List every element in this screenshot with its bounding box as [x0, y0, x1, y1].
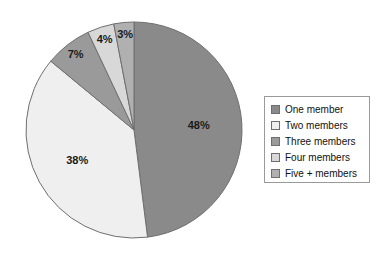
legend-swatch-icon — [271, 137, 280, 146]
legend-swatch-icon — [271, 153, 280, 162]
legend-item: Two members — [271, 118, 369, 133]
chart-legend: One memberTwo membersThree membersFour m… — [264, 96, 370, 183]
legend-item-label: Three members — [285, 136, 356, 147]
legend-item-label: One member — [285, 104, 343, 115]
legend-item: Four members — [271, 150, 369, 165]
legend-item-label: Two members — [285, 120, 348, 131]
legend-item-label: Four members — [285, 152, 350, 163]
legend-item: One member — [271, 102, 369, 117]
legend-swatch-icon — [271, 105, 280, 114]
pie-svg: 48%38%7%4%3% — [0, 0, 260, 266]
pie-slice-value-label: 48% — [188, 119, 210, 131]
legend-item: Three members — [271, 134, 369, 149]
pie-chart: 48%38%7%4%3% One memberTwo membersThree … — [0, 0, 386, 266]
pie-slice-value-label: 3% — [117, 28, 133, 40]
pie-plot-area: 48%38%7%4%3% — [0, 0, 260, 266]
pie-slice-value-label: 4% — [97, 33, 113, 45]
legend-swatch-icon — [271, 121, 280, 130]
pie-slice-value-label: 38% — [66, 154, 88, 166]
legend-item: Five + members — [271, 166, 369, 181]
legend-swatch-icon — [271, 169, 280, 178]
pie-slice-value-label: 7% — [68, 48, 84, 60]
legend-item-label: Five + members — [285, 168, 357, 179]
